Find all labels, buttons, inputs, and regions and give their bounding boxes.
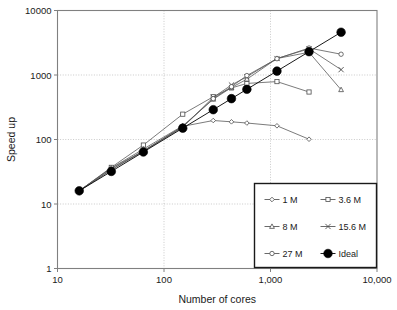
marker-circle-open xyxy=(339,52,343,56)
marker-circle-filled xyxy=(273,67,282,76)
marker-circle-open xyxy=(275,56,279,60)
marker-circle-filled xyxy=(139,148,148,157)
legend-label: 15.6 M xyxy=(339,222,367,232)
marker-square xyxy=(307,90,311,94)
legend-label: Ideal xyxy=(339,249,359,259)
speedup-vs-cores-chart: 110100100010000101001,00010,000 Number o… xyxy=(0,0,397,310)
marker-circle-open xyxy=(211,96,215,100)
marker-circle-open xyxy=(270,251,274,255)
marker-circle-filled xyxy=(227,94,236,103)
y-tick-label: 10000 xyxy=(25,5,51,16)
legend-label: 1 M xyxy=(283,195,298,205)
x-axis-title: Number of cores xyxy=(178,293,256,305)
y-tick-label: 10 xyxy=(41,199,52,210)
x-tick-label: 10 xyxy=(52,274,63,285)
marker-circle-filled xyxy=(209,105,218,114)
marker-square xyxy=(181,112,185,116)
legend-label: 8 M xyxy=(283,222,298,232)
marker-square xyxy=(275,80,279,84)
marker-circle-filled xyxy=(324,249,333,258)
y-tick-label: 1000 xyxy=(30,70,51,81)
x-tick-label: 10,000 xyxy=(362,274,391,285)
x-tick-label: 1,000 xyxy=(259,274,283,285)
marker-circle-filled xyxy=(75,187,84,196)
y-axis-title: Speed up xyxy=(5,117,17,162)
marker-circle-open xyxy=(245,73,249,77)
legend-label: 27 M xyxy=(283,249,303,259)
y-tick-label: 1 xyxy=(46,263,51,274)
marker-circle-filled xyxy=(107,167,116,176)
chart-legend: 1 M3.6 M8 M15.6 M27 MIdeal xyxy=(255,184,377,268)
y-tick-label: 100 xyxy=(36,134,52,145)
marker-circle-filled xyxy=(305,47,314,56)
marker-circle-filled xyxy=(337,28,346,37)
marker-circle-filled xyxy=(178,124,187,133)
marker-circle-open xyxy=(229,84,233,88)
chart-container: 110100100010000101001,00010,000 Number o… xyxy=(0,0,397,310)
legend-label: 3.6 M xyxy=(339,195,362,205)
x-tick-label: 100 xyxy=(156,274,172,285)
marker-square xyxy=(326,197,330,201)
marker-circle-filled xyxy=(243,85,252,94)
legend-entry-ideal[interactable]: Ideal xyxy=(321,249,359,259)
